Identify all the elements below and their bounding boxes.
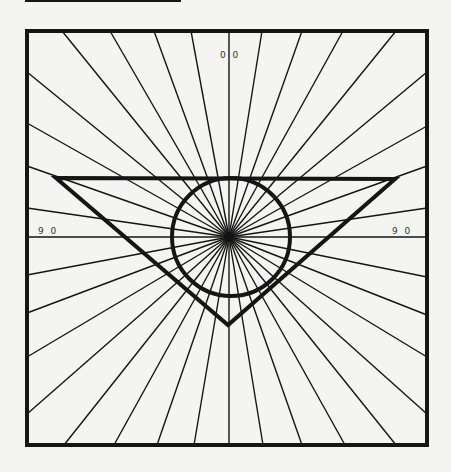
ray-line (229, 31, 396, 237)
illusion-figure (0, 0, 451, 472)
label-right-angle: 9 0 (392, 226, 412, 236)
ray-line (27, 237, 229, 357)
ray-line (110, 31, 229, 237)
ray-line (229, 237, 427, 414)
radiating-lines (27, 31, 427, 445)
ray-line (27, 237, 229, 275)
ray-line (229, 237, 396, 445)
triangle-shape (56, 178, 395, 325)
ray-line (191, 31, 229, 237)
ray-line (229, 237, 427, 315)
ray-line (229, 126, 427, 237)
label-top-angle: 0 0 (220, 50, 240, 60)
label-left-angle: 9 0 (38, 226, 58, 236)
ray-line (229, 237, 427, 277)
